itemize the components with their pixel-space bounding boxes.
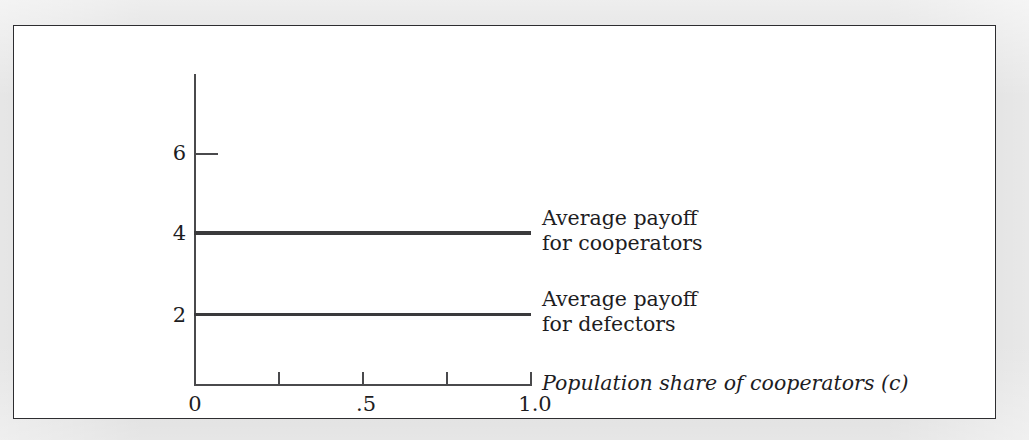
- figure-frame: 6 4 2 0 .5 1.0 Average payoff for cooper…: [13, 25, 996, 419]
- x-tick-label-0: 0: [188, 392, 201, 416]
- x-tick-mark-0-5: [362, 372, 364, 385]
- chart-screenshot: 6 4 2 0 .5 1.0 Average payoff for cooper…: [0, 0, 1029, 440]
- x-tick-label-1-0: 1.0: [518, 392, 551, 416]
- annotation-cooperators-line1: Average payoff: [542, 206, 703, 231]
- x-tick-mark-1-0: [530, 372, 532, 385]
- y-tick-label-group: 6 4 2: [134, 26, 186, 420]
- annotation-defectors: Average payoff for defectors: [542, 287, 697, 337]
- x-tick-label-0-5: .5: [356, 392, 376, 416]
- annotation-cooperators-line2: for cooperators: [542, 231, 703, 256]
- x-axis-title: Population share of cooperators (c): [542, 371, 908, 395]
- y-tick-label-4: 4: [146, 221, 186, 245]
- y-tick-mark-6: [196, 153, 218, 155]
- annotation-defectors-line2: for defectors: [542, 312, 697, 337]
- series-line-cooperators: [194, 231, 531, 235]
- y-axis-line: [194, 74, 196, 386]
- x-tick-mark-0: [194, 372, 196, 385]
- annotation-defectors-line1: Average payoff: [542, 287, 697, 312]
- y-tick-label-2: 2: [146, 303, 186, 327]
- y-tick-label-6: 6: [146, 141, 186, 165]
- series-line-defectors: [194, 313, 531, 316]
- annotation-cooperators: Average payoff for cooperators: [542, 206, 703, 256]
- x-tick-mark-0-25: [278, 372, 280, 385]
- x-tick-mark-0-75: [446, 372, 448, 385]
